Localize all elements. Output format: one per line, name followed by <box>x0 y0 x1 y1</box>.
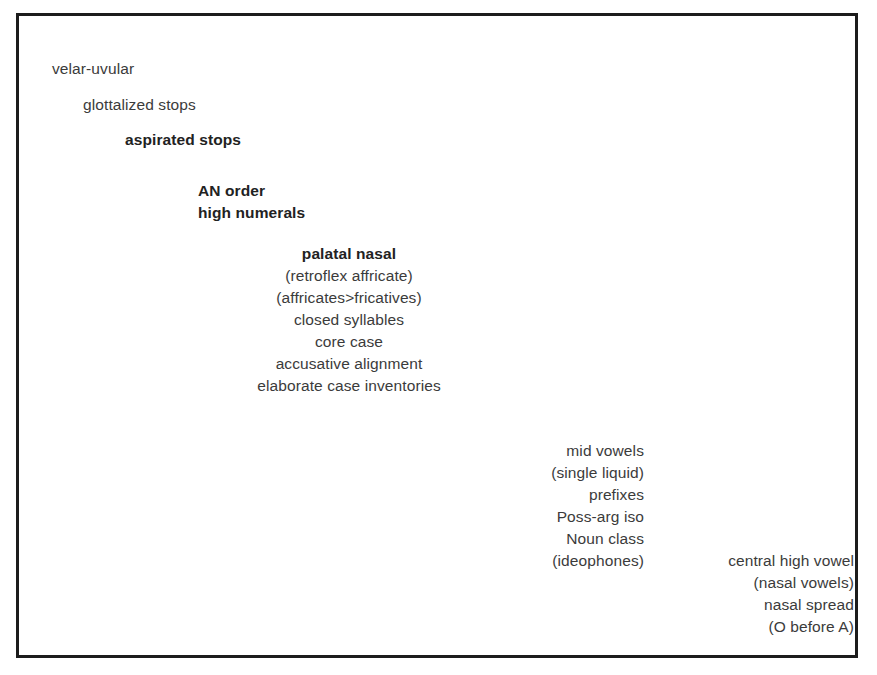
feature-label: mid vowels <box>349 440 644 462</box>
feature-group-velar-uvular: velar-uvular <box>52 58 134 80</box>
feature-label: palatal nasal <box>179 243 519 265</box>
feature-group-central-high-vowel: central high vowel (nasal vowels) nasal … <box>539 550 854 638</box>
feature-label: Poss-arg iso <box>349 506 644 528</box>
feature-group-glottalized-stops: glottalized stops <box>83 94 196 116</box>
feature-label: velar-uvular <box>52 58 134 80</box>
figure-frame: velar-uvular glottalized stops aspirated… <box>16 13 858 658</box>
feature-label: high numerals <box>198 202 305 224</box>
feature-label: (retroflex affricate) <box>179 265 519 287</box>
feature-label: (O before A) <box>539 616 854 638</box>
feature-label: central high vowel <box>539 550 854 572</box>
feature-label: (single liquid) <box>349 462 644 484</box>
feature-group-palatal-nasal: palatal nasal (retroflex affricate) (aff… <box>179 243 519 397</box>
feature-label: (affricates>fricatives) <box>179 287 519 309</box>
feature-label: elaborate case inventories <box>179 375 519 397</box>
feature-label: core case <box>179 331 519 353</box>
feature-label: nasal spread <box>539 594 854 616</box>
feature-label: Noun class <box>349 528 644 550</box>
feature-label: (nasal vowels) <box>539 572 854 594</box>
feature-group-aspirated-stops: aspirated stops <box>125 129 241 151</box>
feature-label: prefixes <box>349 484 644 506</box>
feature-group-an-order: AN order high numerals <box>198 180 305 224</box>
feature-label: aspirated stops <box>125 129 241 151</box>
feature-label: glottalized stops <box>83 94 196 116</box>
feature-label: closed syllables <box>179 309 519 331</box>
feature-label: accusative alignment <box>179 353 519 375</box>
feature-label: AN order <box>198 180 305 202</box>
